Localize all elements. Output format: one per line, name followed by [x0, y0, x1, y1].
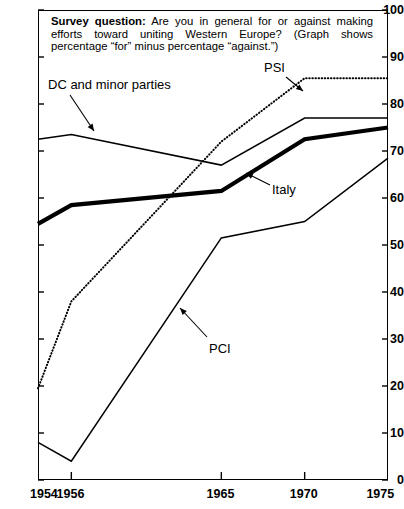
series-label-italy: Italy: [272, 182, 296, 197]
y-tick-label: 70: [370, 145, 404, 158]
x-tick-label: 1975: [366, 487, 394, 501]
y-tick-label: 40: [370, 286, 404, 299]
series-label-dc: DC and minor parties: [48, 77, 171, 92]
y-tick-label: 60: [370, 192, 404, 205]
x-tick-label: 1970: [290, 487, 318, 501]
y-tick-label: 50: [370, 239, 404, 252]
x-tick-label: 1954: [30, 487, 58, 501]
survey-question-box: Survey question: Are you in general for …: [47, 13, 377, 56]
survey-question-lead: Survey question:: [51, 15, 146, 27]
y-tick-label: 30: [370, 333, 404, 346]
series-label-pci: PCI: [209, 341, 231, 356]
x-tick-label: 1965: [207, 487, 235, 501]
survey-question-text: Survey question: Are you in general for …: [51, 15, 373, 53]
series-line: [38, 128, 388, 224]
x-tick-label: 1956: [57, 487, 85, 501]
y-tick-label: 80: [370, 98, 404, 111]
series-label-psi: PSI: [264, 60, 285, 75]
y-tick-label: 10: [370, 427, 404, 440]
x-axis-ticks: [71, 472, 304, 480]
y-tick-label: 20: [370, 380, 404, 393]
annotation-leader-lines: [70, 77, 303, 337]
y-tick-label: 0: [370, 474, 404, 487]
chart-figure: 0102030405060708090100 19541956196519701…: [0, 0, 404, 509]
series-lines: [38, 78, 388, 461]
